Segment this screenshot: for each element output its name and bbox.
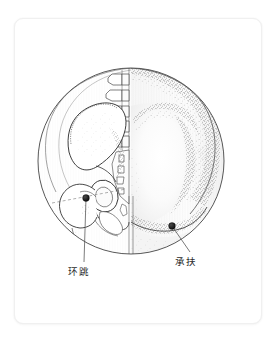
acupoint-label-chengfu: 承扶 [175,256,196,267]
acupoint-label-huantiao: 环跳 [68,266,89,277]
acupoint-marker-huantiao[interactable] [83,195,90,202]
figure-stage: 环跳 承扶 [0,0,276,342]
skin-surface-half [131,66,224,254]
acupoint-marker-chengfu[interactable] [169,223,176,230]
skeletal-half [38,68,131,254]
anatomical-illustration-svg: 环跳 承扶 [0,0,276,342]
